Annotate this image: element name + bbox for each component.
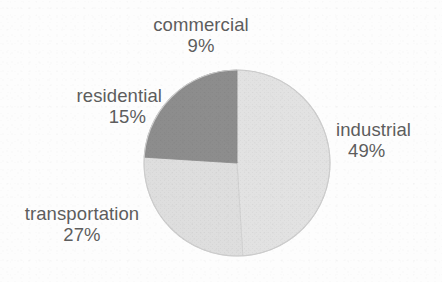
pie-label-industrial-name: industrial <box>336 119 440 140</box>
pie-label-transportation-percent: 27% <box>6 224 158 245</box>
pie-label-industrial: industrial 49% <box>336 119 440 162</box>
pie-label-residential-percent: 15% <box>30 106 162 127</box>
pie-label-residential: residential 15% <box>30 85 162 128</box>
pie-texture-overlay <box>144 70 330 256</box>
pie-label-residential-name: residential <box>30 85 162 106</box>
pie-label-transportation-name: transportation <box>6 203 158 224</box>
pie-label-industrial-percent: 49% <box>336 140 440 161</box>
pie-label-commercial-percent: 9% <box>141 35 261 56</box>
pie-label-commercial-name: commercial <box>141 14 261 35</box>
pie-chart-figure: commercial 9% residential 15% transporta… <box>0 0 442 282</box>
pie-label-transportation: transportation 27% <box>6 203 158 246</box>
pie-label-commercial: commercial 9% <box>141 14 261 57</box>
